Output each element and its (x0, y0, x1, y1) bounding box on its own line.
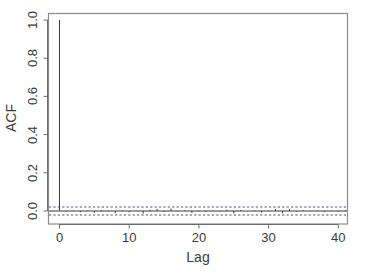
y-tick-label: 0.0 (25, 202, 40, 220)
x-tick-label: 10 (122, 230, 136, 245)
y-tick-labels: 1.0 0.8 0.6 0.4 0.2 0.0 (25, 11, 40, 220)
x-axis-title: Lag (186, 249, 209, 265)
y-tick-label: 0.8 (25, 49, 40, 67)
acf-plot-figure: 1.0 0.8 0.6 0.4 0.2 0.0 (0, 0, 370, 273)
y-tick-label: 0.2 (25, 164, 40, 182)
x-tick-label: 0 (56, 230, 63, 245)
x-tick-label: 20 (192, 230, 206, 245)
x-tick-label: 30 (261, 230, 275, 245)
plot-frame (49, 14, 348, 225)
y-tick-label: 1.0 (25, 11, 40, 29)
acf-stems (60, 20, 346, 214)
acf-plot-svg: 1.0 0.8 0.6 0.4 0.2 0.0 (0, 0, 370, 273)
y-tick-label: 0.6 (25, 87, 40, 105)
x-axis (59, 225, 338, 229)
x-tick-labels: 0 10 20 30 40 (56, 230, 346, 245)
y-axis (44, 20, 48, 211)
y-axis-title: ACF (3, 104, 19, 132)
y-tick-label: 0.4 (25, 126, 40, 144)
x-tick-label: 40 (331, 230, 345, 245)
